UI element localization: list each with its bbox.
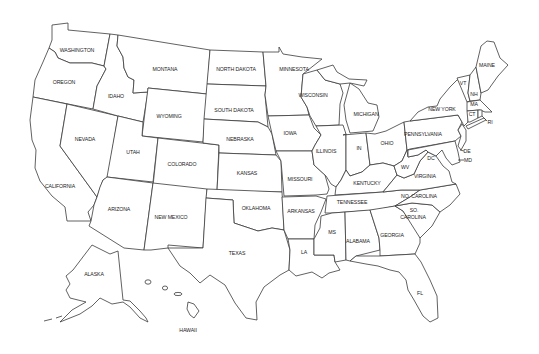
label-oklahoma: OKLAHOMA <box>242 205 271 211</box>
state-florida[interactable] <box>350 254 438 322</box>
map-canvas: WASHINGTON OREGON CALIFORNIA IDAHO NEVAD… <box>0 0 539 354</box>
label-nevada: NEVADA <box>75 136 96 142</box>
state-alaska[interactable] <box>60 245 148 322</box>
label-dc: DC <box>427 155 435 161</box>
label-alabama: ALABAMA <box>346 238 370 244</box>
label-rhode-island: RI <box>488 119 493 125</box>
label-connecticut: CT <box>469 111 477 117</box>
label-ohio: OHIO <box>381 140 394 146</box>
label-minnesota: MINNESOTA <box>279 66 309 72</box>
label-nebraska: NEBRASKA <box>226 136 254 142</box>
label-maryland: MD <box>464 157 472 163</box>
hawaii-oahu <box>162 286 167 290</box>
label-new-york: NEW YORK <box>428 106 456 112</box>
label-washington: WASHINGTON <box>60 47 95 53</box>
aleutian-islands <box>44 316 62 321</box>
state-shapes <box>30 23 508 322</box>
label-north-dakota: NORTH DAKOTA <box>216 66 256 72</box>
label-south-dakota: SOUTH DAKOTA <box>214 107 254 113</box>
label-missouri: MISSOURI <box>288 176 313 182</box>
label-louisiana: LA <box>301 249 308 255</box>
label-pennsylvania: PENNSYLVANIA <box>404 131 442 137</box>
label-arizona: ARIZONA <box>108 206 131 212</box>
label-maine: MAINE <box>479 62 496 68</box>
state-hawaii[interactable] <box>187 302 199 318</box>
label-california: CALIFORNIA <box>45 183 76 189</box>
label-wisconsin: WISCONSIN <box>298 92 327 98</box>
state-mississippi[interactable] <box>314 212 346 262</box>
label-oregon: OREGON <box>53 79 76 85</box>
label-tennessee: TENNESSEE <box>337 199 368 205</box>
label-idaho: IDAHO <box>108 93 124 99</box>
label-arkansas: ARKANSAS <box>287 208 315 214</box>
label-kentucky: KENTUCKY <box>353 180 381 186</box>
state-rhode-island[interactable] <box>478 110 482 118</box>
label-georgia: GEORGIA <box>380 232 404 238</box>
label-new-mexico: NEW MEXICO <box>154 214 187 220</box>
label-michigan: MICHIGAN <box>353 111 378 117</box>
label-illinois: ILLINOIS <box>316 148 337 154</box>
state-michigan[interactable] <box>344 83 379 133</box>
us-states-map: WASHINGTON OREGON CALIFORNIA IDAHO NEVAD… <box>0 0 539 354</box>
label-hawaii: HAWAII <box>179 327 196 333</box>
label-florida: FL <box>417 290 423 296</box>
label-south-carolina-1: SO. <box>410 207 419 213</box>
label-new-hampshire: NH <box>470 91 478 97</box>
label-north-carolina: NO. CAROLINA <box>401 193 438 199</box>
label-vermont: VT <box>460 80 467 86</box>
label-iowa: IOWA <box>283 130 297 136</box>
label-utah: UTAH <box>126 149 140 155</box>
label-kansas: KANSAS <box>237 170 258 176</box>
label-south-carolina-2: CAROLINA <box>400 214 426 220</box>
label-wyoming: WYOMING <box>156 113 181 119</box>
hawaii-kauai <box>145 280 151 284</box>
label-texas: TEXAS <box>229 250 246 256</box>
label-montana: MONTANA <box>153 66 178 72</box>
label-indiana: IN <box>357 145 362 151</box>
label-massachusetts: MA <box>470 101 478 107</box>
label-colorado: COLORADO <box>168 161 197 167</box>
label-virginia: VIRGINIA <box>414 173 437 179</box>
label-mississippi: MS <box>328 229 336 235</box>
label-delaware: DE <box>463 148 471 154</box>
label-west-virginia: WV <box>401 164 410 170</box>
label-alaska: ALASKA <box>84 271 104 277</box>
hawaii-maui <box>174 292 182 295</box>
